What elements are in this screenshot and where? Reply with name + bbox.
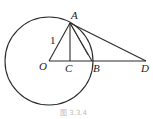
label-b: B: [93, 62, 100, 74]
geometry-figure: A O C B D 1 图 3.3.4: [0, 0, 153, 119]
radius-label: 1: [50, 34, 56, 46]
label-c: C: [65, 62, 73, 74]
figure-caption: 图 3.3.4: [60, 109, 88, 117]
label-a: A: [70, 9, 78, 21]
label-o: O: [39, 60, 47, 72]
label-d: D: [140, 62, 149, 74]
